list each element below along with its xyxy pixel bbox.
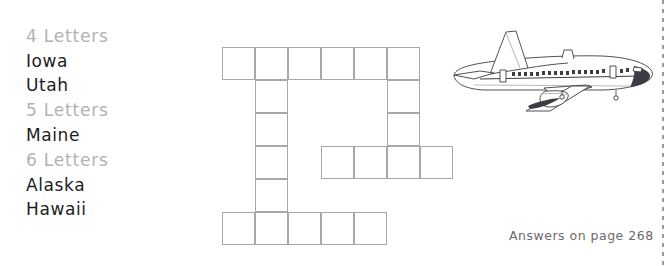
airplane-icon [444, 22, 662, 118]
word-list-item: Iowa [26, 49, 196, 73]
crossword-cell[interactable] [255, 146, 288, 179]
crossword-cell[interactable] [354, 146, 387, 179]
crossword-cell[interactable] [321, 146, 354, 179]
word-list-item: Maine [26, 123, 196, 147]
crossword-cell[interactable] [288, 47, 321, 80]
word-group-4-letters: 4 Letters Iowa Utah [26, 24, 196, 97]
crossword-cell[interactable] [255, 113, 288, 146]
crossword-cell[interactable] [288, 212, 321, 245]
crossword-cell[interactable] [387, 80, 420, 113]
answers-note: Answers on page 268 [509, 228, 654, 244]
crossword-cell[interactable] [255, 80, 288, 113]
crossword-cell[interactable] [222, 212, 255, 245]
airliner-side-view-illustration [444, 22, 662, 118]
crossword-cell[interactable] [222, 47, 255, 80]
crossword-cell[interactable] [387, 113, 420, 146]
word-list: 4 Letters Iowa Utah 5 Letters Maine 6 Le… [26, 24, 196, 222]
crossword-cell[interactable] [321, 47, 354, 80]
crossword-cell[interactable] [387, 146, 420, 179]
crossword-grid[interactable] [222, 47, 428, 245]
word-list-item: Hawaii [26, 197, 196, 221]
word-group-5-letters: 5 Letters Maine [26, 98, 196, 147]
crossword-cell[interactable] [255, 179, 288, 212]
word-group-heading: 4 Letters [26, 24, 196, 49]
crossword-cell[interactable] [387, 47, 420, 80]
word-list-item: Alaska [26, 173, 196, 197]
word-list-item: Utah [26, 73, 196, 97]
word-group-6-letters: 6 Letters Alaska Hawaii [26, 148, 196, 221]
crossword-cell[interactable] [255, 212, 288, 245]
word-group-heading: 6 Letters [26, 148, 196, 173]
crossword-cell[interactable] [255, 47, 288, 80]
crossword-cell[interactable] [354, 212, 387, 245]
crossword-cell[interactable] [321, 212, 354, 245]
word-group-heading: 5 Letters [26, 98, 196, 123]
crossword-cell[interactable] [420, 146, 453, 179]
dotted-cut-line [662, 0, 664, 266]
crossword-cell[interactable] [354, 47, 387, 80]
